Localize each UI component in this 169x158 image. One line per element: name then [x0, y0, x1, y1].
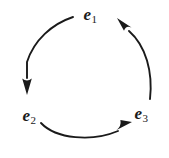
node-symbol-e3: e — [134, 104, 142, 123]
node-subscript-e2: 2 — [31, 114, 37, 126]
edge-e1-to-e2 — [22, 17, 73, 95]
cycle-diagram: e1 e2 e3 — [0, 0, 169, 158]
node-symbol-e2: e — [22, 106, 30, 125]
cycle-arrows-svg — [0, 0, 169, 158]
edge-e3-to-e1 — [117, 18, 151, 99]
edge-e2-to-e3 — [41, 120, 132, 137]
node-subscript-e1: 1 — [92, 13, 98, 25]
edge-e3-to-e1-curve — [129, 31, 151, 99]
node-label-e1: e1 — [83, 6, 96, 23]
edge-e1-to-e2-arrowhead — [22, 79, 32, 96]
node-label-e2: e2 — [22, 107, 35, 124]
edge-e2-to-e3-curve — [41, 123, 118, 138]
node-subscript-e3: 3 — [143, 112, 149, 124]
edge-e2-to-e3-arrowhead — [117, 120, 132, 130]
edge-e1-to-e2-curve — [27, 17, 73, 78]
edge-e3-to-e1-arrowhead — [117, 18, 132, 31]
node-symbol-e1: e — [83, 5, 91, 24]
node-label-e3: e3 — [134, 105, 147, 122]
